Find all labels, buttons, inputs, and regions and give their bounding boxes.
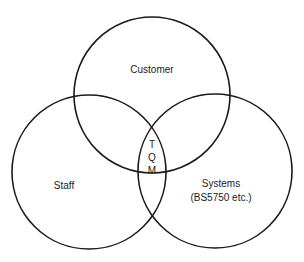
tqm-letter-m: M [148, 165, 156, 176]
venn-diagram: Customer Staff Systems (BS5750 etc.) T Q… [0, 0, 304, 262]
systems-circle [138, 94, 292, 248]
tqm-letter-q: Q [148, 152, 156, 163]
tqm-letter-t: T [149, 139, 155, 150]
staff-label: Staff [54, 180, 75, 191]
systems-label: Systems [202, 178, 240, 189]
systems-sublabel: (BS5750 etc.) [190, 192, 251, 203]
customer-label: Customer [130, 64, 174, 75]
